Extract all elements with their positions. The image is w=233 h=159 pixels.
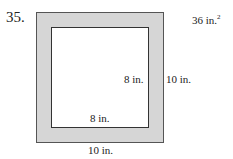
outer-height-label: 10 in. <box>166 73 191 85</box>
outer-width-label: 10 in. <box>88 144 113 156</box>
inner-width-label: 8 in. <box>90 112 110 124</box>
inner-height-label: 8 in. <box>124 73 144 85</box>
problem-number: 35. <box>6 9 25 26</box>
area-answer: 36 in.2 <box>192 13 221 26</box>
